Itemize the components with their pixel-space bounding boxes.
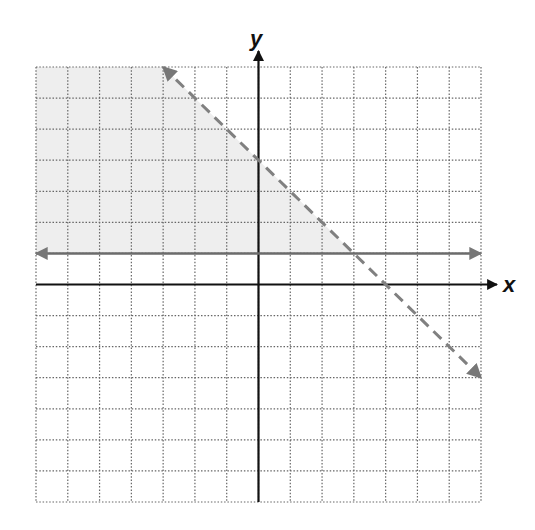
- y-axis-label: y: [250, 26, 262, 52]
- x-axis-label: x: [503, 272, 515, 298]
- coordinate-plane: [0, 0, 535, 530]
